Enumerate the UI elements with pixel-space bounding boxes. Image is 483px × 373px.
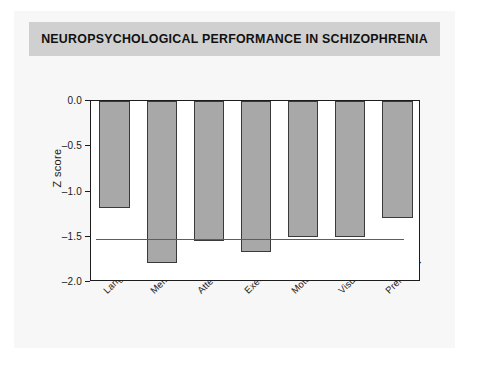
bar-premorbid [382,101,412,218]
bar-attention [194,101,224,241]
reference-line [96,239,404,240]
bars-container [91,101,419,280]
y-tick-label: –1.0 [42,185,82,196]
y-tick-label: –0.5 [42,140,82,151]
bar-language [99,101,129,208]
plot-area: Z score 0.0–0.5–1.0–1.5–2.0 LanguageMemo… [0,0,483,373]
y-tick-mark [85,281,90,282]
y-axis-label: Z score [51,108,63,228]
y-tick-label: 0.0 [42,95,82,106]
bar-motor [288,101,318,237]
y-tick-label: –2.0 [42,276,82,287]
y-tick-label: –1.5 [42,230,82,241]
bar-executive [241,101,271,252]
plot-frame [90,100,420,281]
chart-figure: NEUROPSYCHOLOGICAL PERFORMANCE IN SCHIZO… [0,0,483,373]
bar-visuospatial [335,101,365,237]
